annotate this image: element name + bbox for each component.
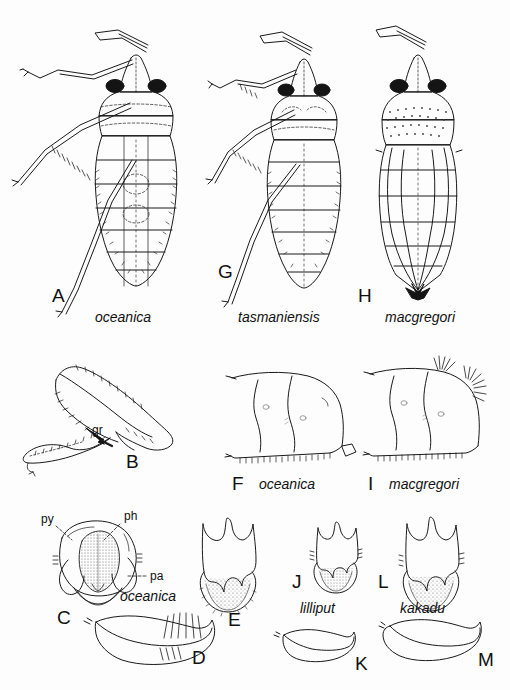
panel-letter-i: I — [368, 474, 373, 493]
species-label-f: oceanica — [259, 477, 315, 491]
anat-label-py: py — [41, 513, 54, 525]
panel-k-paramere — [274, 630, 355, 662]
panel-letter-l: L — [378, 572, 389, 591]
species-label-i: macgregori — [389, 477, 459, 491]
species-label-j: lilliput — [300, 601, 335, 615]
panel-letter-f: F — [232, 474, 244, 493]
species-label-a: oceanica — [95, 310, 151, 324]
plate-artwork — [0, 0, 510, 690]
panel-letter-a: A — [52, 286, 65, 305]
species-label-g: tasmaniensis — [238, 310, 320, 324]
panel-letter-j: J — [292, 572, 302, 591]
panel-letter-m: M — [478, 650, 494, 669]
panel-letter-g: G — [218, 262, 233, 281]
panel-letter-k: K — [355, 654, 368, 673]
species-label-l: kakadu — [400, 601, 445, 615]
panel-f-abdomen — [225, 372, 356, 463]
illustration-plate: A oceanica G tasmaniensis H macgregori B… — [0, 0, 510, 690]
anat-label-gr: gr — [92, 424, 103, 436]
specimen-a — [12, 30, 177, 317]
panel-e-plate — [200, 518, 256, 616]
panel-letter-b: B — [126, 452, 139, 471]
specimen-h — [376, 26, 462, 300]
panel-letter-h: H — [358, 286, 372, 305]
panel-m-paramere — [379, 620, 481, 661]
panel-l-plate — [399, 517, 464, 611]
panel-letter-c: C — [57, 608, 71, 627]
panel-j-plate — [310, 522, 362, 593]
panel-i-abdomen — [363, 356, 486, 461]
anat-label-pa: pa — [150, 570, 163, 582]
species-label-h: macgregori — [385, 310, 455, 324]
panel-letter-e: E — [228, 610, 241, 629]
panel-letter-d: D — [192, 648, 206, 667]
anat-label-ph: ph — [124, 510, 137, 522]
panel-b-leg — [23, 365, 173, 476]
species-label-c: oceanica — [120, 589, 176, 603]
